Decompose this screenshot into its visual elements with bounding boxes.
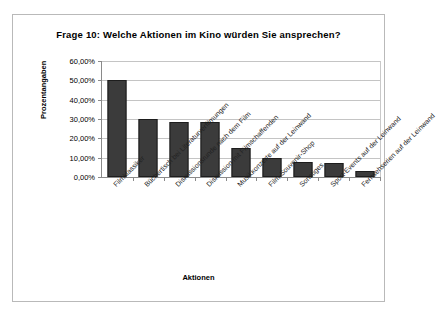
x-tick-mark (195, 177, 196, 181)
y-tick-mark (98, 177, 102, 178)
y-tick-label: 40,00% (70, 95, 95, 104)
x-axis-title: Aktionen (13, 273, 384, 282)
x-tick-mark (349, 177, 350, 181)
bar-slot (102, 61, 133, 177)
x-tick-mark (287, 177, 288, 181)
y-tick-label: 0,00% (74, 173, 95, 182)
y-tick-label: 20,00% (70, 134, 95, 143)
plot-right-border (380, 61, 381, 177)
chart-title: Frage 10: Welche Aktionen im Kino würden… (13, 29, 384, 40)
x-tick-mark (256, 177, 257, 181)
x-tick-mark (380, 177, 381, 181)
x-tick-mark (164, 177, 165, 181)
y-tick-label: 50,00% (70, 76, 95, 85)
bar-slot (318, 61, 349, 177)
x-tick-mark (226, 177, 227, 181)
chart-figure: Frage 10: Welche Aktionen im Kino würden… (12, 14, 385, 302)
y-tick-label: 30,00% (70, 115, 95, 124)
y-axis-title: Prozentangaben (39, 61, 48, 119)
y-tick-label: 10,00% (70, 153, 95, 162)
bar (108, 80, 127, 177)
y-tick-label: 60,00% (70, 57, 95, 66)
bar (139, 119, 158, 177)
x-tick-mark (133, 177, 134, 181)
x-tick-mark (318, 177, 319, 181)
